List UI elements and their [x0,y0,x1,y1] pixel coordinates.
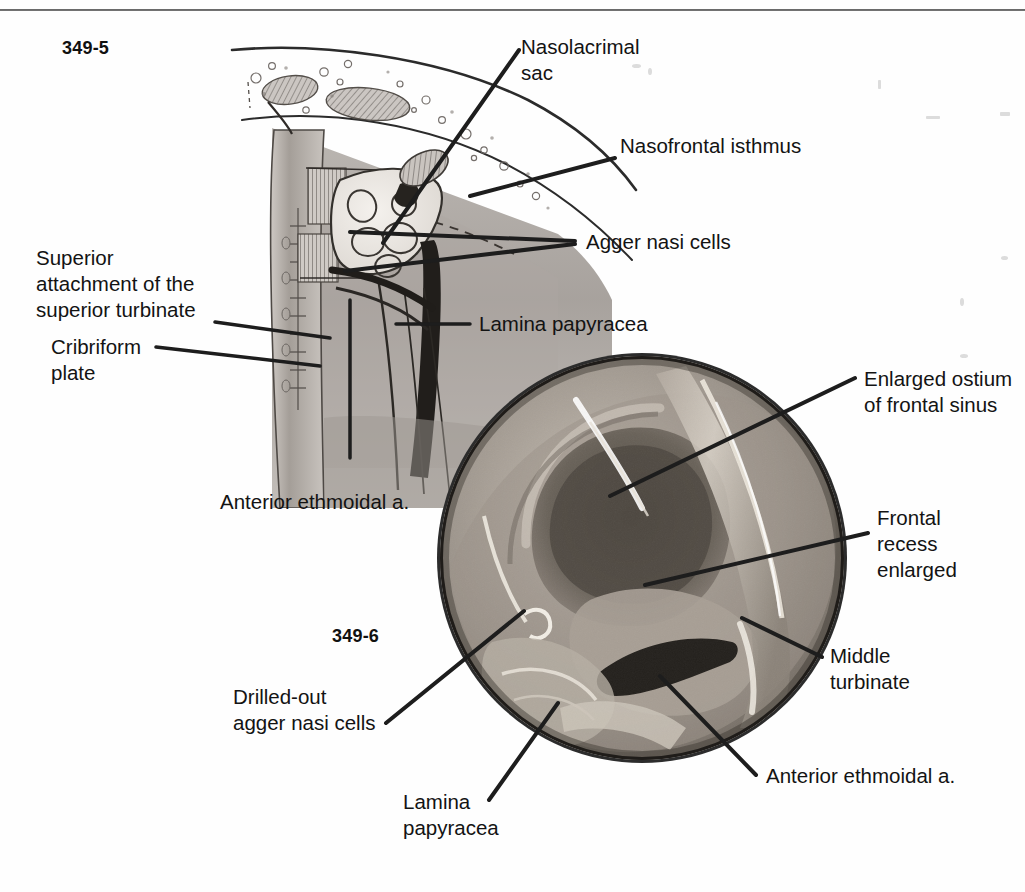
scan-artifact [648,68,652,75]
label-anterior-ethmoidal-a-top: Anterior ethmoidal a. [220,489,409,515]
label-drilled-out-agger-nasi-cells: Drilled-out agger nasi cells [233,684,381,736]
label-nasolacrimal-sac: Nasolacrimal sac [521,34,639,86]
scanned-atlas-page: 349-5 349-6 Nasolacrimal sac Nasofrontal… [0,0,1025,892]
scan-artifact [926,116,940,119]
label-superior-attachment-superior-turbinate: Superior attachment of the superior turb… [36,245,196,323]
label-lamina-papyracea-top: Lamina papyracea [479,311,648,337]
scan-artifact [878,80,881,89]
label-agger-nasi-cells: Agger nasi cells [586,229,731,255]
scan-artifact [960,298,964,306]
label-cribriform-plate: Cribriform plate [51,334,141,386]
scan-artifact [960,354,968,358]
scan-artifact [632,64,641,68]
label-lamina-papyracea-bottom: Lamina papyracea [403,789,499,841]
label-nasofrontal-isthmus: Nasofrontal isthmus [620,133,801,159]
figure-349-6-endoscopic-photo [440,356,844,760]
scan-artifact [1001,256,1008,260]
label-enlarged-ostium-of-frontal-sinus: Enlarged ostium of frontal sinus [864,366,1012,418]
label-frontal-recess-enlarged: Frontal recess enlarged [877,505,957,583]
label-middle-turbinate: Middle turbinate [830,643,910,695]
figure-number-349-5: 349-5 [62,38,109,59]
figure-number-349-6: 349-6 [332,626,379,647]
label-anterior-ethmoidal-a-bottom: Anterior ethmoidal a. [766,763,955,789]
scan-artifact [1000,112,1010,116]
page-top-rule [0,9,1025,11]
